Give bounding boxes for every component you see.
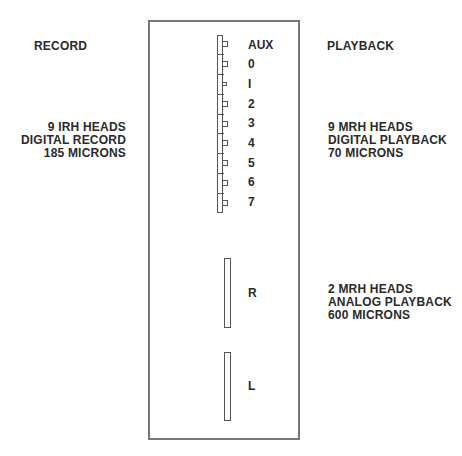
head-tab-aux (223, 41, 228, 47)
head-label-aux: AUX (248, 39, 273, 52)
head-divider (217, 114, 224, 115)
playback-section-title: PLAYBACK (327, 40, 394, 53)
head-tab-6 (223, 180, 228, 186)
head-label-3: 3 (248, 117, 255, 130)
head-tab-4 (223, 140, 228, 146)
record-digital-description: 9 IRH HEADS DIGITAL RECORD 185 MICRONS (6, 121, 126, 160)
playback-analog-line-3: 600 MICRONS (328, 309, 452, 322)
head-label-4: 4 (248, 137, 255, 150)
head-label-2: 2 (248, 98, 255, 111)
head-tab-5 (223, 160, 228, 166)
head-tab-0 (223, 61, 228, 67)
record-section-title: RECORD (34, 40, 87, 53)
head-label-6: 6 (248, 176, 255, 189)
head-divider (217, 133, 224, 134)
playback-analog-description: 2 MRH HEADS ANALOG PLAYBACK 600 MICRONS (328, 283, 452, 322)
head-label-5: 5 (248, 157, 255, 170)
head-divider (217, 94, 224, 95)
head-label-1: I (248, 78, 251, 91)
analog-head-label-l: L (248, 380, 255, 393)
head-divider (217, 193, 224, 194)
analog-head-right (224, 258, 231, 328)
analog-head-left (224, 352, 231, 421)
head-label-0: 0 (248, 58, 255, 71)
head-divider (217, 74, 224, 75)
playback-digital-description: 9 MRH HEADS DIGITAL PLAYBACK 70 MICRONS (328, 121, 447, 160)
head-divider (217, 54, 224, 55)
head-tab-1 (223, 82, 227, 86)
analog-head-label-r: R (248, 287, 257, 300)
playback-digital-line-3: 70 MICRONS (328, 147, 447, 160)
record-line-3: 185 MICRONS (6, 147, 126, 160)
head-divider (217, 173, 224, 174)
head-tab-2 (223, 101, 228, 107)
head-tab-3 (223, 121, 228, 127)
head-label-7: 7 (248, 196, 255, 209)
head-divider (217, 153, 224, 154)
head-tab-7 (223, 200, 228, 206)
